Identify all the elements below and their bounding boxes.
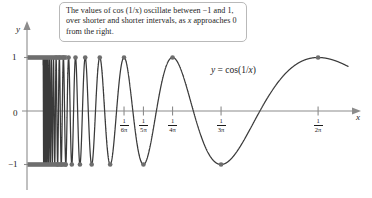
extremum-dot xyxy=(73,55,78,60)
function-label-eq: = cos(1/ xyxy=(215,65,248,75)
annotation-callout: The values of cos (1/x) oscillate betwee… xyxy=(59,2,247,42)
fraction-denominator: 3π xyxy=(208,127,234,134)
extremum-dot xyxy=(83,55,88,60)
function-label: y = cos(1/x) xyxy=(211,65,256,75)
extremum-dot xyxy=(61,55,66,60)
extremum-dot xyxy=(108,162,113,167)
figure-cos-one-over-x: The values of cos (1/x) oscillate betwee… xyxy=(0,0,372,198)
extremum-dot xyxy=(66,55,71,60)
y-axis-arrowhead xyxy=(23,21,30,30)
annotation-line-1: The values of cos (1/x) oscillate betwee… xyxy=(66,6,211,15)
y-tick-label-one: 1 xyxy=(12,52,17,62)
y-tick-label-zero: 0 xyxy=(13,108,18,118)
extremum-dot xyxy=(55,162,60,167)
function-label-close: ) xyxy=(253,65,256,75)
fraction-numerator: 1 xyxy=(160,118,186,125)
fraction-denominator: 2π xyxy=(305,127,331,134)
extremum-dot xyxy=(78,162,83,167)
fraction-numerator: 1 xyxy=(130,118,156,125)
extremum-dot xyxy=(170,55,175,60)
extremum-dot xyxy=(219,162,224,167)
y-tick-label-neg-one: −1 xyxy=(8,159,18,169)
extremum-dot xyxy=(141,162,146,167)
extremum-dot xyxy=(69,162,74,167)
extremum-dot xyxy=(316,55,321,60)
x-tick-label-3: 14π xyxy=(160,118,186,134)
fraction-denominator: 4π xyxy=(160,127,186,134)
x-tick-label-5: 12π xyxy=(305,118,331,134)
fraction-numerator: 1 xyxy=(208,118,234,125)
x-tick-label-2: 15π xyxy=(130,118,156,134)
x-axis-label: x xyxy=(356,112,360,122)
extremum-dot xyxy=(89,162,94,167)
x-tick-label-4: 13π xyxy=(208,118,234,134)
fraction-numerator: 1 xyxy=(305,118,331,125)
extremum-dot xyxy=(54,55,59,60)
y-axis-label: y xyxy=(16,24,20,34)
extremum-dot xyxy=(64,162,69,167)
fraction-denominator: 5π xyxy=(130,127,156,134)
extremum-dot xyxy=(97,55,102,60)
extremum-dot xyxy=(122,55,127,60)
